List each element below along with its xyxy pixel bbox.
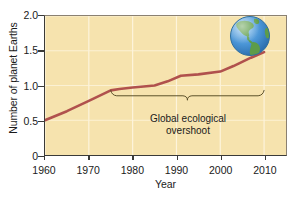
- y-tick-label: 2.0: [4, 9, 38, 21]
- y-tick-label: 1.5: [4, 44, 38, 56]
- x-tick-mark: [132, 155, 133, 160]
- earth-globe-icon: [228, 14, 272, 58]
- x-tick-mark: [44, 155, 45, 160]
- x-tick-label: 2010: [242, 164, 288, 176]
- x-tick-label: 1990: [154, 164, 200, 176]
- y-tick-label: 0: [4, 150, 38, 162]
- overshoot-annotation: Global ecological overshoot: [112, 113, 264, 136]
- x-axis-tick-labels: 196019701980199020002010: [44, 159, 287, 175]
- x-tick-mark: [265, 155, 266, 160]
- x-axis-title: Year: [44, 178, 287, 190]
- overshoot-annotation-line2: overshoot: [112, 125, 264, 137]
- x-tick-mark: [88, 155, 89, 160]
- x-tick-mark: [177, 155, 178, 160]
- x-tick-label: 1980: [109, 164, 155, 176]
- overshoot-brace: [111, 90, 264, 100]
- x-tick-label: 1960: [21, 164, 67, 176]
- overshoot-annotation-line1: Global ecological: [112, 113, 264, 125]
- y-axis-tick-labels: 00.51.01.52.0: [0, 15, 38, 156]
- x-tick-label: 1970: [65, 164, 111, 176]
- x-tick-mark: [221, 155, 222, 160]
- y-tick-label: 0.5: [4, 115, 38, 127]
- chart-figure: Number of planet Earths 00.51.01.52.0: [0, 0, 299, 197]
- y-tick-label: 1.0: [4, 80, 38, 92]
- x-tick-label: 2000: [198, 164, 244, 176]
- data-line: [45, 52, 264, 120]
